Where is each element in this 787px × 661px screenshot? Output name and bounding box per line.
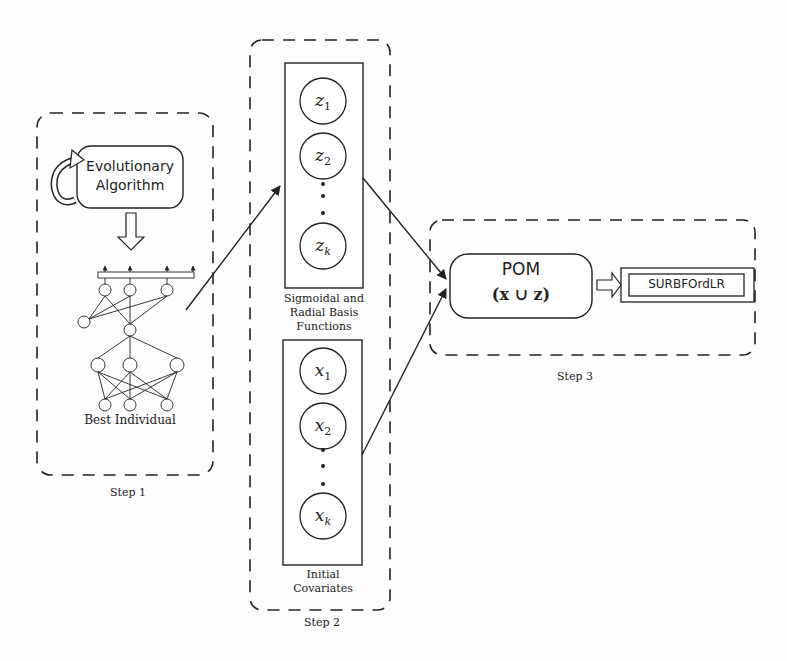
step1-label: Step 1: [98, 486, 158, 499]
covariates-caption: Initial Covariates: [263, 568, 383, 596]
node-xk-label: xk: [300, 505, 346, 528]
output-label: SURBFOrdLR: [629, 277, 744, 291]
step3-label: Step 3: [545, 370, 605, 383]
down-arrow-icon: [118, 213, 144, 250]
pom-formula: (x ∪ z): [450, 285, 592, 304]
node-z2-label: z2: [300, 145, 346, 168]
node-z1-label: z1: [300, 90, 346, 113]
network-icon: [78, 266, 194, 411]
node-x2-label: x2: [300, 415, 346, 438]
network-caption: Best Individual: [70, 413, 190, 427]
node-zk-label: zk: [300, 235, 346, 258]
diagram-shapes: [0, 0, 787, 661]
pom-title: POM: [450, 259, 592, 279]
arrow-z-to-pom: [363, 178, 446, 279]
right-arrow-icon: [597, 273, 621, 297]
node-x1-label: x1: [300, 360, 346, 383]
basis-functions-caption: Sigmoidal and Radial Basis Functions: [264, 292, 384, 334]
step2-label: Step 2: [292, 616, 352, 629]
ea-box-label: Evolutionary Algorithm: [77, 157, 183, 195]
diagram-canvas: Evolutionary Algorithm Best Individual S…: [0, 0, 787, 661]
